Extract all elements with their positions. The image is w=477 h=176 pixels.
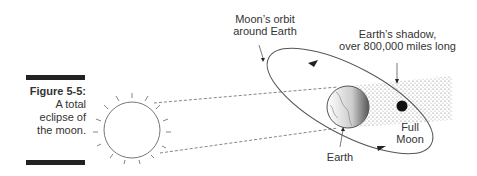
sun-icon: [93, 93, 171, 164]
moon-label-line: Moon: [390, 133, 430, 145]
orbit-label: Moon’s orbit around Earth: [215, 13, 315, 37]
moon-label-line: Full: [390, 121, 430, 133]
orbit-arrow: [308, 60, 318, 67]
shadow-label-line: over 800,000 miles long: [335, 40, 460, 52]
orbit-label-line: Moon’s orbit: [215, 13, 315, 25]
earth-icon: [327, 86, 369, 128]
orbit-label-line: around Earth: [215, 25, 315, 37]
shadow-label-line: Earth’s shadow,: [335, 28, 460, 40]
shadow-label: Earth’s shadow, over 800,000 miles long: [335, 28, 460, 52]
moon-icon: [397, 101, 408, 112]
earth-label: Earth: [318, 151, 362, 163]
moon-label: Full Moon: [390, 121, 430, 145]
